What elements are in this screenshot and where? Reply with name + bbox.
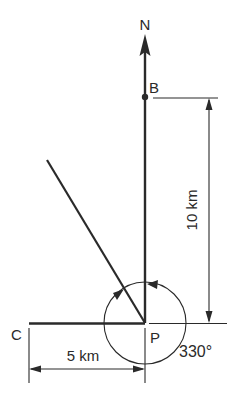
north-label: N — [140, 16, 151, 33]
point-c-label: C — [11, 326, 22, 343]
bearing-diagram: N B 10 km 5 km C P 330° — [0, 0, 247, 405]
dimension-arrow-up-icon — [206, 98, 213, 110]
distance-cp-label: 5 km — [67, 347, 100, 364]
point-b-dot — [142, 94, 148, 100]
dimension-arrow-right-icon — [133, 366, 145, 373]
distance-pb-dimension — [206, 98, 213, 323]
dimension-arrow-down-icon — [206, 311, 213, 323]
arc-arrow-bearing-icon — [113, 289, 124, 300]
arc-arrow-north-icon — [147, 280, 158, 289]
distance-cp-dimension — [29, 366, 145, 373]
bearing-angle-label: 330° — [179, 343, 212, 360]
bearing-line — [47, 160, 145, 323]
dimension-arrow-left-icon — [29, 366, 41, 373]
point-p-label: P — [150, 329, 160, 346]
distance-pb-label: 10 km — [183, 190, 200, 231]
point-b-label: B — [149, 79, 159, 96]
north-line — [140, 34, 151, 323]
